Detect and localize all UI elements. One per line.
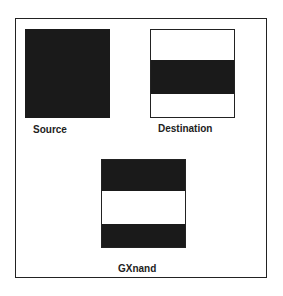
source-label: Source xyxy=(33,124,67,135)
destination-black-band xyxy=(151,60,234,94)
result-top-band xyxy=(102,160,185,191)
result-label: GXnand xyxy=(118,263,156,274)
destination-label: Destination xyxy=(158,123,212,134)
source-square xyxy=(25,29,110,118)
result-bottom-band xyxy=(102,224,185,247)
destination-square xyxy=(150,29,235,118)
result-square xyxy=(101,159,186,248)
